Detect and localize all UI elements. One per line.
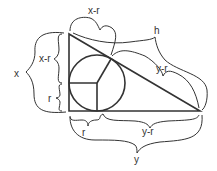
brace-top-x-minus-r	[70, 17, 116, 55]
label-bottom-r: r	[82, 127, 86, 138]
label-hyp-y-minus-r: y-r	[156, 63, 168, 74]
label-left-x-minus-r: x-r	[39, 53, 51, 64]
label-left-r: r	[48, 93, 52, 104]
label-bottom-y-minus-r: y-r	[142, 126, 154, 137]
label-top-x-minus-r: x-r	[88, 5, 100, 16]
label-x: x	[14, 68, 19, 79]
brace-hyp-h	[73, 33, 207, 110]
brace-bottom-r	[70, 114, 103, 126]
radius-to-hypotenuse	[97, 59, 111, 83]
incircle-diagram: x x-r r x-r h y-r r y-r y	[0, 0, 217, 171]
brace-left-x-minus-r	[54, 34, 62, 83]
label-h: h	[154, 25, 160, 36]
brace-left-r	[56, 84, 62, 111]
right-triangle	[69, 34, 200, 111]
label-y: y	[134, 154, 139, 165]
